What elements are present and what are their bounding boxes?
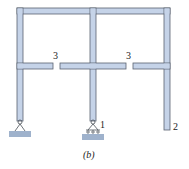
joint-fill-top-mid [91,9,96,14]
support-label-1: 1 [100,119,105,130]
joint-fill-top-right [165,9,170,14]
joint-fill-mid-right [164,64,169,69]
joint-fill-top-left [18,9,23,14]
frame-diagram: 3 3 1 2 (b) [0,0,189,169]
free-end-label-2: 2 [173,121,178,132]
hinge-label-left: 3 [53,50,58,61]
figure-caption: (b) [83,149,95,161]
joint-fill-mid-left [18,64,23,69]
hinge-label-right: 3 [126,50,131,61]
pin-support-left [9,120,31,137]
joint-fill-mid-center [90,64,96,69]
